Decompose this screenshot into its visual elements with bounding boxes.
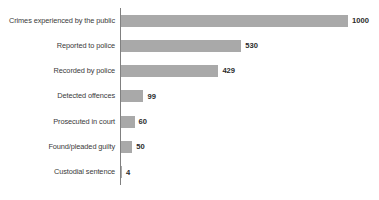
bar-value-label: 1000 xyxy=(352,17,369,25)
bar-value-label: 60 xyxy=(139,118,147,126)
category-label: Custodial sentence xyxy=(54,169,115,176)
bar xyxy=(121,65,218,77)
chart-row: Custodial sentence 4 xyxy=(0,160,379,185)
category-label: Found/pleaded guilty xyxy=(48,143,115,150)
category-label: Reported to police xyxy=(57,42,115,49)
bar-chart: Crimes experienced by the public 1000 Re… xyxy=(0,0,379,200)
bar xyxy=(121,166,122,178)
bar-value-label: 530 xyxy=(245,42,258,50)
chart-row: Found/pleaded guilty 50 xyxy=(0,134,379,159)
bar-group: 50 xyxy=(121,141,145,153)
bar-value-label: 429 xyxy=(222,67,235,75)
bar-group: 99 xyxy=(121,90,156,102)
bar-group: 60 xyxy=(121,116,147,128)
bar-value-label: 4 xyxy=(126,169,130,177)
bar-group: 429 xyxy=(121,65,235,77)
bar xyxy=(121,15,348,27)
chart-rows: Crimes experienced by the public 1000 Re… xyxy=(0,8,379,185)
bar xyxy=(121,40,241,52)
bar-group: 4 xyxy=(121,166,130,178)
chart-row: Detected offences 99 xyxy=(0,84,379,109)
category-label: Crimes experienced by the public xyxy=(9,17,115,24)
category-label: Recorded by police xyxy=(54,68,115,75)
chart-row: Crimes experienced by the public 1000 xyxy=(0,8,379,33)
chart-row: Reported to police 530 xyxy=(0,33,379,58)
bar xyxy=(121,90,143,102)
bar-value-label: 50 xyxy=(136,143,144,151)
bar xyxy=(121,141,132,153)
bar-group: 1000 xyxy=(121,15,369,27)
bar xyxy=(121,116,135,128)
chart-row: Recorded by police 429 xyxy=(0,59,379,84)
bar-group: 530 xyxy=(121,40,258,52)
chart-row: Prosecuted in court 60 xyxy=(0,109,379,134)
category-label: Detected offences xyxy=(57,93,115,100)
bar-value-label: 99 xyxy=(147,93,155,101)
category-label: Prosecuted in court xyxy=(53,118,115,125)
